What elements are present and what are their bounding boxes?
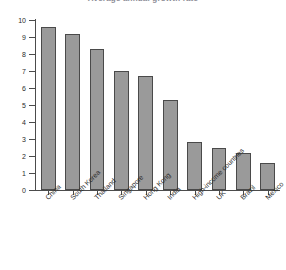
y-axis-tick-label: 7 xyxy=(2,68,26,75)
bar xyxy=(65,34,80,190)
bar xyxy=(187,142,202,190)
y-axis-tick xyxy=(29,37,35,38)
y-axis-tick-label: 3 xyxy=(2,136,26,143)
y-axis-tick xyxy=(29,88,35,89)
y-axis-tick xyxy=(29,190,35,191)
y-axis-tick-label: 0 xyxy=(2,187,26,194)
y-axis-tick-label: 10 xyxy=(2,17,26,24)
y-axis-tick xyxy=(29,105,35,106)
bar xyxy=(114,71,129,190)
y-axis-tick xyxy=(29,156,35,157)
y-axis-tick xyxy=(29,173,35,174)
chart-title: Average annual growth rate xyxy=(0,0,286,3)
y-axis-tick-label: 1 xyxy=(2,170,26,177)
y-axis-tick-label: 9 xyxy=(2,34,26,41)
y-axis-tick xyxy=(29,71,35,72)
y-axis-tick xyxy=(29,139,35,140)
plot-area: Average annual growth rate (%) xyxy=(36,20,280,190)
y-axis-tick-label: 5 xyxy=(2,102,26,109)
y-axis-tick-label: 2 xyxy=(2,153,26,160)
y-axis-tick xyxy=(29,122,35,123)
y-axis-tick-label: 4 xyxy=(2,119,26,126)
bar xyxy=(41,27,56,190)
y-axis-tick xyxy=(29,54,35,55)
y-axis-tick xyxy=(29,20,35,21)
chart-screenshot: Average annual growth rate Average annua… xyxy=(0,0,286,270)
y-axis-tick-label: 8 xyxy=(2,51,26,58)
bar xyxy=(138,76,153,190)
y-axis-tick-label: 6 xyxy=(2,85,26,92)
